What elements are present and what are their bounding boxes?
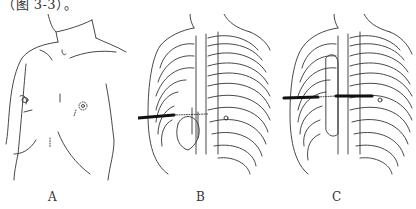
- panel-a-label: A: [48, 190, 57, 204]
- panel-c-label: C: [332, 190, 341, 204]
- chest-outline-illustration: [0, 14, 140, 190]
- panel-b-figure: [138, 14, 278, 190]
- panel-c-figure: [276, 14, 416, 190]
- rib-cage-illustration-b: [138, 14, 278, 190]
- figure-caption: （图 3-3）。: [2, 0, 77, 13]
- rib-cage-illustration-c: [276, 14, 416, 190]
- panel-b-label: B: [196, 190, 205, 204]
- panel-a-figure: [0, 14, 140, 190]
